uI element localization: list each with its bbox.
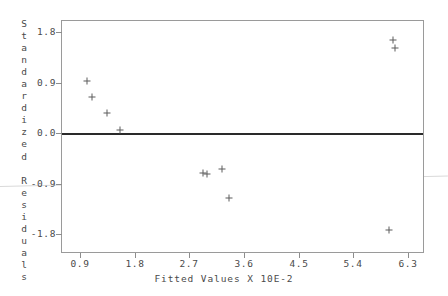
x-tick-label: 4.5 xyxy=(290,258,309,269)
plot-frame xyxy=(61,20,424,253)
x-tick-label: 6.3 xyxy=(399,258,418,269)
y-tick-mark xyxy=(56,234,62,235)
y-tick-mark xyxy=(56,133,62,134)
data-point-marker xyxy=(218,165,225,172)
y-axis-title-letter: d xyxy=(18,151,30,163)
data-point-marker xyxy=(391,44,398,51)
y-tick-label: 1.8 xyxy=(37,27,56,37)
residual-plot-figure: 1.80.90.0-0.9-1.80.91.82.73.64.55.46.3 S… xyxy=(0,0,448,296)
y-axis-title-letter: s xyxy=(18,199,30,211)
y-tick-label: -1.8 xyxy=(31,229,56,239)
data-point-marker xyxy=(104,109,111,116)
x-tick-label: 2.7 xyxy=(180,258,199,269)
data-point-marker xyxy=(389,36,396,43)
data-point-marker xyxy=(116,127,123,134)
y-axis-title-letter: t xyxy=(18,30,30,42)
y-axis-title-letter: d xyxy=(18,223,30,235)
x-tick-label: 5.4 xyxy=(344,258,363,269)
y-axis-title: Standardized.Residuals xyxy=(18,18,30,283)
y-axis-title-letter: d xyxy=(18,66,30,78)
y-tick-label: -0.9 xyxy=(31,179,56,189)
data-point-marker xyxy=(203,171,210,178)
y-axis-title-letter: a xyxy=(18,247,30,259)
x-tick-label: 3.6 xyxy=(235,258,254,269)
data-point-marker xyxy=(225,194,232,201)
x-tick-label: 0.9 xyxy=(71,258,90,269)
y-tick-label: 0.0 xyxy=(37,128,56,138)
y-axis-title-letter: z xyxy=(18,126,30,138)
y-axis-title-letter: a xyxy=(18,42,30,54)
y-axis-title-letter: n xyxy=(18,54,30,66)
data-point-marker xyxy=(89,94,96,101)
y-axis-title-letter: r xyxy=(18,90,30,102)
y-axis-title-letter: R xyxy=(18,175,30,187)
y-axis-title-letter: e xyxy=(18,138,30,150)
y-axis-title-letter: u xyxy=(18,235,30,247)
y-axis-title-letter: i xyxy=(18,114,30,126)
y-tick-mark xyxy=(56,184,62,185)
y-tick-mark xyxy=(56,32,62,33)
data-point-marker xyxy=(385,227,392,234)
y-axis-title-letter: S xyxy=(18,18,30,30)
y-axis-title-letter: e xyxy=(18,187,30,199)
y-axis-title-letter: i xyxy=(18,211,30,223)
y-axis-title-letter: d xyxy=(18,102,30,114)
data-point-marker xyxy=(83,77,90,84)
y-tick-mark xyxy=(56,83,62,84)
x-tick-label: 1.8 xyxy=(126,258,145,269)
x-axis-title: Fitted Values X 10E-2 xyxy=(0,273,448,284)
y-axis-title-letter: l xyxy=(18,259,30,271)
y-tick-label: 0.9 xyxy=(37,78,56,88)
y-axis-title-letter: a xyxy=(18,78,30,90)
